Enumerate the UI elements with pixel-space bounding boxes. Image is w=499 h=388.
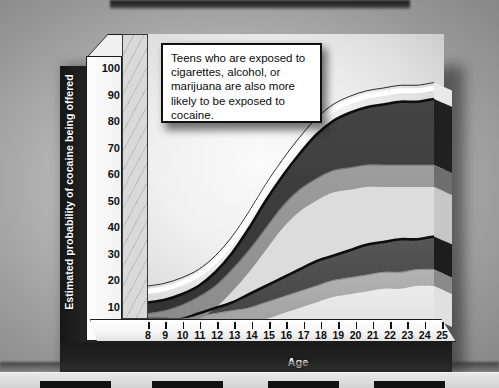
y-axis-tick-label: 40 [108, 222, 120, 232]
x-axis-tick [269, 322, 271, 329]
callout-box: Teens who are exposed to cigarettes, alc… [161, 43, 322, 123]
x-axis-tick-label: 10 [177, 329, 189, 341]
side-face-segment [434, 99, 452, 173]
chart-right-3d-face [434, 34, 454, 326]
x-axis-tick-label: 22 [384, 329, 396, 341]
x-axis-tick-label: 12 [211, 329, 223, 341]
x-axis-tick [148, 322, 150, 329]
x-axis-tick-label: 18 [315, 329, 327, 341]
y-axis-tick-label: 50 [108, 196, 120, 206]
y-axis-label: Estimated probability of cocaine being o… [63, 67, 75, 317]
x-axis-tick-label: 11 [194, 329, 205, 341]
y-axis-tick-label: 60 [108, 169, 120, 179]
y-axis-tick-label: 100 [102, 63, 120, 73]
page-edge-block [40, 381, 111, 388]
x-axis-tick [407, 322, 409, 329]
x-axis-tick-label: 9 [162, 329, 168, 341]
x-axis-tick-label: 25 [436, 329, 448, 341]
x-axis-tick-label: 24 [419, 329, 431, 341]
x-axis-tick-label: 17 [298, 329, 310, 341]
page-edge-block [374, 381, 445, 388]
x-axis-tick-label: 19 [332, 329, 344, 341]
y-axis-tick-label: 10 [108, 302, 120, 312]
x-axis-tick [304, 322, 306, 329]
y-axis-tick-label: 70 [108, 143, 120, 153]
x-axis-tick-label: 21 [367, 329, 379, 341]
x-axis-tick [286, 322, 288, 329]
x-axis-tick-label: 14 [246, 329, 258, 341]
y-axis-tick-label: 90 [108, 90, 120, 100]
x-axis-tick-label: 13 [229, 329, 241, 341]
x-axis-ticks: 8910111213141516171819202122232425 [146, 322, 446, 338]
x-axis-tick [390, 322, 392, 329]
page-top-edge-artifact [110, 0, 410, 9]
side-face-segment [434, 187, 452, 245]
y-axis-tick-label: 80 [108, 116, 120, 126]
chart-plate: Estimated probability of cocaine being o… [28, 26, 448, 346]
x-axis-tick [321, 322, 323, 329]
x-axis-tick [252, 322, 254, 329]
page-edge-block [152, 381, 223, 388]
x-axis-tick-label: 8 [145, 329, 151, 341]
x-axis-tick [338, 322, 340, 329]
page-edge-block [268, 381, 339, 388]
y-axis-tick-label: 30 [108, 249, 120, 259]
x-axis-tick [217, 322, 219, 329]
x-axis-tick [356, 322, 358, 329]
x-axis-tick-label: 23 [402, 329, 414, 341]
x-axis-tick [425, 322, 427, 329]
x-axis-tick [183, 322, 185, 329]
page-bottom-edge-strip [0, 372, 499, 388]
x-axis-tick [234, 322, 236, 329]
x-axis-tick-label: 15 [263, 329, 275, 341]
x-axis-tick [442, 322, 444, 329]
x-axis-tick [373, 322, 375, 329]
x-axis-tick [165, 322, 167, 329]
x-axis-tick [200, 322, 202, 329]
y-axis-tick-label: 20 [108, 275, 120, 285]
x-axis-tick-label: 16 [281, 329, 293, 341]
x-axis-tick-label: 20 [350, 329, 362, 341]
y-axis-prism-side-face [122, 34, 148, 319]
